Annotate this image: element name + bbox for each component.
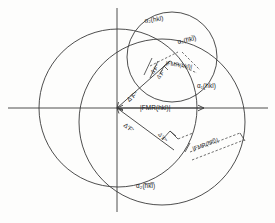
derivative-circle-minus xyxy=(79,39,245,205)
label-alpha2-hkl-bar: α₂(h̅k̅l̅) xyxy=(136,183,155,190)
label-alpha1-hkl: α₁(hkl) xyxy=(197,83,216,90)
label-fmr-hkl-center: |FMR(hkl)| xyxy=(140,105,171,112)
right-angle-marker-lower xyxy=(170,131,176,136)
lower-tick-a xyxy=(185,143,190,152)
phase-diagram-figure: α₂(hkl) α₁(h̅k̅l̅) α₁(hkl) α₂(h̅k̅l̅) |F… xyxy=(0,0,275,223)
